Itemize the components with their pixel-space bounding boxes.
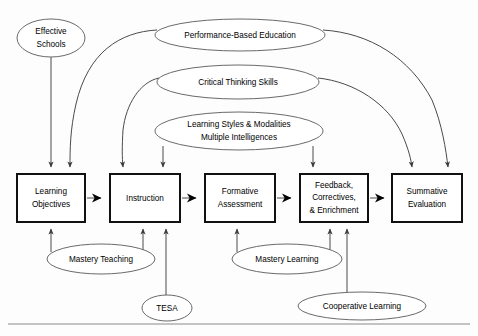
ellipse-label: Effective [35, 27, 67, 36]
process-box-label: Feedback, [315, 181, 353, 190]
process-box-label: & Enrichment [309, 206, 359, 215]
diagram-canvas: Learning Objectives Instruction Formativ… [0, 0, 478, 336]
ellipse-label: Critical Thinking Skills [198, 78, 277, 87]
connector-pbe-to-summative-evaluation [323, 30, 448, 167]
process-box-learning-objectives[interactable]: Learning Objectives [17, 174, 85, 222]
process-box-formative-assessment[interactable]: Formative Assessment [205, 174, 275, 222]
ellipse-label: TESA [156, 304, 178, 313]
ellipse-label: Schools [36, 40, 65, 49]
ellipse-performance-based-education[interactable]: Performance-Based Education [155, 19, 325, 51]
ellipse-tesa[interactable]: TESA [142, 295, 192, 321]
process-box-summative-evaluation[interactable]: Summative Evaluation [392, 174, 462, 222]
process-box-label: Correctives, [312, 193, 356, 202]
process-box-label: Summative [407, 187, 448, 196]
ellipse-label: Performance-Based Education [184, 31, 296, 40]
ellipse-cooperative-learning[interactable]: Cooperative Learning [298, 292, 426, 320]
process-box-label: Learning [35, 187, 67, 196]
ellipse-label: Mastery Teaching [69, 255, 133, 264]
ellipse-mastery-teaching[interactable]: Mastery Teaching [47, 244, 155, 274]
process-box-label: Assessment [218, 200, 263, 209]
process-box-instruction[interactable]: Instruction [110, 174, 180, 222]
connector-critical-thinking-to-instruction [122, 78, 159, 167]
connector-critical-thinking-to-summative-evaluation [318, 78, 412, 167]
ellipse-critical-thinking-skills[interactable]: Critical Thinking Skills [157, 65, 319, 99]
ellipse-label: Cooperative Learning [323, 302, 402, 311]
process-box-label: Instruction [126, 194, 164, 203]
process-box-label: Objectives [32, 200, 70, 209]
ellipse-label: Mastery Learning [255, 255, 319, 264]
connector-pbe-to-learning-objectives [70, 30, 157, 167]
ellipse-effective-schools[interactable]: Effective Schools [17, 19, 85, 57]
ellipse-label: Learning Styles & Modalities [187, 120, 290, 129]
ellipse-mastery-learning[interactable]: Mastery Learning [232, 244, 342, 274]
ellipse-label: Multiple Intelligences [201, 133, 277, 142]
process-box-label: Evaluation [408, 200, 447, 209]
process-flow-diagram: Learning Objectives Instruction Formativ… [0, 0, 478, 336]
process-box-label: Formative [222, 187, 259, 196]
ellipse-learning-styles-multiple-intelligences[interactable]: Learning Styles & Modalities Multiple In… [155, 112, 323, 150]
process-box-feedback-correctives-enrichment[interactable]: Feedback, Correctives, & Enrichment [300, 174, 368, 222]
